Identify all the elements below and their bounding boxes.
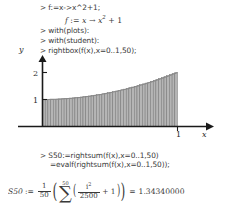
result-assign: := (25, 187, 34, 196)
y-axis-label: y (19, 45, 24, 54)
maple-input-line-1[interactable]: > f:=x->x^2+1; (40, 3, 100, 12)
riemann-rectangle (172, 74, 175, 127)
outer-fraction-numerator: 1 (40, 183, 48, 191)
riemann-rectangle (75, 98, 78, 127)
riemann-rectangle (105, 93, 108, 126)
riemann-rectangle (45, 99, 48, 126)
inner-fraction: i2 2500 (78, 182, 100, 200)
riemann-rectangle (145, 83, 148, 126)
riemann-rectangle (102, 94, 105, 127)
riemann-rectangle (97, 95, 100, 127)
maple-output-function-definition: f := x → x2 + 1 (65, 13, 122, 25)
output-tail: + 1 (106, 16, 122, 25)
riemann-rectangle (134, 86, 137, 126)
riemann-rectangle (140, 85, 143, 127)
riemann-rectangle (72, 98, 75, 127)
x-tick-label-1: 1 (176, 130, 181, 139)
riemann-rectangle (83, 97, 86, 127)
riemann-rectangle (61, 99, 64, 127)
x-axis-label: x (202, 130, 207, 139)
riemann-rectangle (175, 73, 178, 127)
riemann-rectangle (121, 90, 124, 127)
riemann-rectangle (142, 84, 145, 127)
open-paren-inner: ( (73, 185, 76, 197)
riemann-rectangle (161, 78, 164, 127)
riemann-rectangle (70, 98, 73, 126)
maple-input-line-6[interactable]: =evalf(rightsum(f(x),x=0..1,50)); (50, 160, 170, 169)
plus-one-term: + 1 (102, 187, 115, 196)
riemann-rectangle (53, 99, 56, 126)
close-paren-outer: ) (121, 183, 126, 200)
riemann-rectangle (94, 95, 97, 126)
riemann-rectangle (48, 99, 51, 126)
riemann-rectangle (78, 97, 81, 126)
riemann-rectangle (51, 99, 54, 126)
inner-fraction-denominator: 2500 (78, 193, 100, 201)
maple-input-line-4[interactable]: > rightbox(f(x),x=0..1,50); (40, 46, 136, 55)
riemann-rectangle (151, 81, 154, 126)
riemann-rectangle (88, 96, 91, 127)
riemann-rectangle (164, 77, 167, 127)
outer-fraction: 1 50 (38, 183, 51, 199)
riemann-rectangle (132, 87, 135, 126)
riemann-rectangle (64, 99, 67, 127)
sigma-icon: ∑ (59, 186, 72, 201)
maple-output-sum-result: S50 := 1 50 ( 50 ∑ ( i2 2500 + 1 ) ) = 1… (8, 176, 227, 206)
riemann-rectangle (80, 97, 83, 126)
maple-worksheet: > f:=x->x^2+1; f := x → x2 + 1 > with(pl… (0, 0, 227, 206)
y-tick-label-1: 1 (33, 96, 38, 105)
riemann-rectangle (113, 92, 116, 127)
inner-num-exponent: 2 (88, 181, 91, 187)
x-axis-arrowhead (206, 123, 214, 131)
riemann-rectangle (169, 75, 172, 127)
riemann-rectangle (118, 90, 121, 126)
result-value: 1.34340000 (139, 187, 185, 196)
riemann-rectangle (148, 82, 151, 126)
riemann-rectangle (110, 92, 113, 126)
summation-operator: 50 ∑ (59, 181, 72, 201)
maple-input-line-3[interactable]: > with(student): (40, 36, 99, 45)
riemann-rectangle (107, 93, 110, 127)
riemann-rectangle (91, 96, 94, 127)
y-axis-arrowhead (39, 55, 47, 62)
riemann-rectangle (156, 80, 159, 127)
open-paren-outer: ( (52, 183, 57, 200)
maple-input-line-5[interactable]: > S50:=rightsum(f(x),x=0..1,50) (40, 151, 159, 160)
riemann-rectangle (167, 76, 170, 127)
output-assign-symbol: := (68, 16, 82, 25)
result-equals: = (129, 187, 135, 196)
outer-fraction-denominator: 50 (38, 192, 51, 200)
riemann-rectangle (86, 96, 89, 126)
riemann-rectangle (115, 91, 118, 126)
riemann-rectangles (43, 73, 178, 127)
riemann-rectangle (159, 79, 162, 127)
riemann-rectangle (67, 98, 70, 126)
riemann-rectangle (126, 88, 129, 126)
riemann-rectangle (129, 88, 132, 127)
riemann-rectangle (137, 86, 140, 127)
y-tick-label-2: 2 (33, 69, 38, 78)
riemann-rectangle (56, 99, 59, 126)
riemann-rectangle (99, 94, 102, 126)
riemann-rectangle (153, 80, 156, 126)
result-label: S50 (8, 187, 23, 196)
riemann-rectangle (59, 99, 62, 127)
maple-input-line-2[interactable]: > with(plots): (40, 26, 89, 35)
output-arrow: → (86, 16, 98, 25)
riemann-rectangle (124, 89, 127, 126)
inner-fraction-numerator: i2 (84, 182, 93, 192)
